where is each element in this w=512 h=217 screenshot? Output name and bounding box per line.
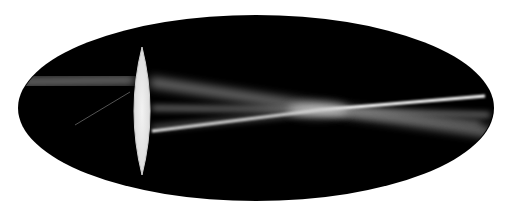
optics-illustration [0, 0, 512, 217]
lens-optics-photo [0, 0, 512, 217]
